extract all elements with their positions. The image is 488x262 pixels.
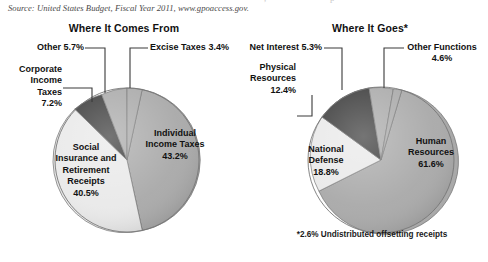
leader-line-excise-taxes [130, 48, 148, 88]
leader-line-net-interest [324, 48, 342, 90]
callout-excise-taxes: Excise Taxes 3.4% [150, 42, 229, 53]
label-human-resources: Human Resources 61.6% [388, 136, 474, 170]
chart-panel-where-it-goes: Where It Goes* [244, 18, 488, 262]
label-social-insurance-retirement-receipts: Social Insurance and Retirement Receipts… [42, 142, 130, 199]
label-social-line-4: Receipts [42, 176, 130, 187]
callout-corporate-line-1: Corporate [0, 64, 62, 75]
label-defense-line-3: 18.8% [288, 167, 364, 178]
callout-net-interest-line-1: Net Interest 5.3% [232, 42, 322, 53]
callout-other-functions-line-2: 4.6% [394, 53, 488, 64]
callout-other-functions-line-1: Other Functions [394, 42, 488, 53]
footnote-undistributed-receipts: *2.6% Undistributed offsetting receipts [244, 230, 488, 239]
callout-other: Other 5.7% [0, 42, 84, 53]
callout-corporate-line-2: Income [0, 75, 62, 86]
source-note: Source: United States Budget, Fiscal Yea… [8, 3, 249, 13]
clipped-text-remnant-left: , [264, 0, 266, 3]
label-social-line-3: Retirement [42, 165, 130, 176]
callout-excise-line-1: Excise Taxes 3.4% [150, 42, 229, 53]
label-social-line-1: Social [42, 142, 130, 153]
label-social-line-2: Insurance and [42, 153, 130, 164]
label-defense-line-2: Defense [288, 155, 364, 166]
label-human-line-2: Resources [388, 147, 474, 158]
label-individual-line-2: Income Taxes [129, 139, 221, 150]
callout-physical-resources: Physical Resources 12.4% [234, 62, 296, 96]
callout-corporate-line-3: Taxes [0, 87, 62, 98]
label-individual-line-3: 43.2% [129, 151, 221, 162]
label-social-line-5: 40.5% [42, 188, 130, 199]
label-defense-line-1: National [288, 144, 364, 155]
callout-net-interest: Net Interest 5.3% [232, 42, 322, 53]
clipped-text-remnant-right: p [330, 0, 335, 3]
label-national-defense: National Defense 18.8% [288, 144, 364, 178]
label-human-line-3: 61.6% [388, 159, 474, 170]
leader-line-physical-resources [297, 95, 312, 116]
callout-physical-line-2: Resources [234, 73, 296, 84]
callout-physical-line-3: 12.4% [234, 85, 296, 96]
budget-pie-charts-figure: { "source_note": "Source: United States … [0, 0, 488, 262]
callout-other-functions: Other Functions 4.6% [394, 42, 488, 65]
callout-corporate-line-4: 7.2% [0, 98, 62, 109]
callout-corporate-income-taxes: Corporate Income Taxes 7.2% [0, 64, 62, 110]
callout-physical-line-1: Physical [234, 62, 296, 73]
label-human-line-1: Human [388, 136, 474, 147]
chart-panel-where-it-comes-from: Where It Comes From [0, 18, 244, 262]
leader-line-other [85, 48, 105, 93]
callout-other-line-1: Other 5.7% [0, 42, 84, 53]
label-individual-line-1: Individual [129, 128, 221, 139]
label-individual-income-taxes: Individual Income Taxes 43.2% [129, 128, 221, 162]
